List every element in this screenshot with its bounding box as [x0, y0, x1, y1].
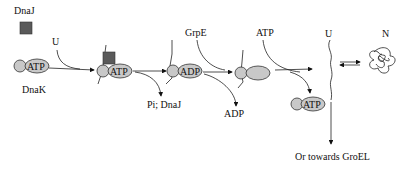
dnak-dnaj-substrate-complex: ATP — [97, 45, 132, 84]
dnak-atp-release-arrow — [290, 72, 310, 93]
native-n-label: N — [382, 28, 389, 39]
substrate-release-arrow — [275, 69, 312, 70]
dnaj-square-icon — [20, 22, 32, 34]
pi-dnaj-release-arrow — [135, 72, 161, 96]
atp-binding-curve — [263, 40, 300, 72]
native-folded-protein-icon — [370, 48, 395, 73]
unfolded-u-label: U — [52, 36, 60, 47]
released-u-label: U — [325, 28, 333, 39]
grpe-binding-curve — [197, 40, 225, 70]
dnak-label: DnaK — [22, 84, 47, 95]
unfolded-chain-icon — [329, 40, 332, 100]
svg-text:ATP: ATP — [303, 99, 321, 110]
u-binding-curve — [57, 50, 80, 69]
pi-dnaj-label: Pi; DnaJ — [147, 99, 181, 110]
dnaj-label: DnaJ — [14, 5, 35, 16]
grpe-label: GrpE — [185, 27, 207, 38]
dnak-atp-regenerated-complex: ATP — [291, 97, 325, 111]
svg-text:ATP: ATP — [110, 66, 128, 77]
svg-text:ADP: ADP — [180, 66, 200, 77]
groel-label: Or towards GroEL — [295, 151, 370, 162]
svg-text:ATP: ATP — [27, 61, 45, 72]
adp-release-label: ADP — [224, 108, 244, 119]
dnak-empty-substrate-complex — [235, 50, 270, 88]
atp-input-label: ATP — [256, 27, 274, 38]
dnak-chaperone-cycle-diagram: DnaJ ATP DnaK U ATP Pi; DnaJ ADP GrpE AD… — [0, 0, 412, 172]
binding-arrow — [49, 68, 94, 70]
dnak-atp-complex: ATP — [14, 59, 49, 73]
adp-release-arrow — [204, 74, 236, 106]
dnak-adp-substrate-complex: ADP — [166, 40, 202, 84]
